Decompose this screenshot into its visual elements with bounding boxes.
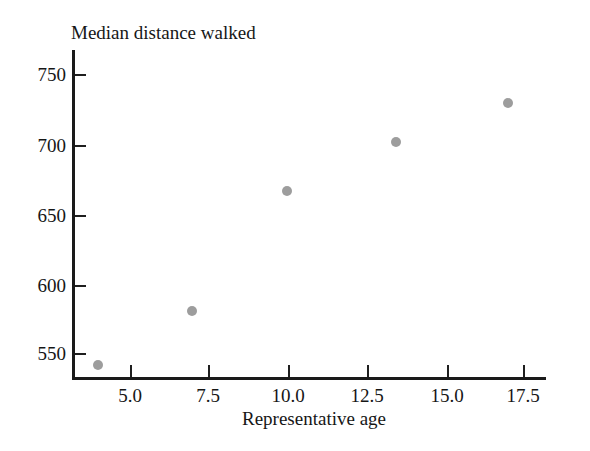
data-point bbox=[187, 306, 197, 316]
y-axis-tick bbox=[75, 145, 86, 147]
y-axis-tick-label: 550 bbox=[6, 344, 66, 363]
x-axis-tick bbox=[130, 365, 132, 377]
y-axis-title: Median distance walked bbox=[71, 22, 256, 44]
x-axis-tick-label: 12.5 bbox=[337, 386, 397, 405]
x-axis-tick-label: 15.0 bbox=[417, 386, 477, 405]
y-axis-tick-labels: 750700650600550 bbox=[0, 0, 66, 451]
x-axis-tick-label: 5.0 bbox=[100, 386, 160, 405]
x-axis-tick-label: 10.0 bbox=[258, 386, 318, 405]
data-point bbox=[503, 98, 513, 108]
x-axis-tick-label: 7.5 bbox=[178, 386, 238, 405]
x-axis-tick bbox=[288, 365, 290, 377]
data-point bbox=[391, 137, 401, 147]
y-axis-tick-label: 600 bbox=[6, 276, 66, 295]
y-axis-tick bbox=[75, 353, 86, 355]
data-point bbox=[93, 360, 103, 370]
y-axis-tick-label: 700 bbox=[6, 136, 66, 155]
y-axis-tick bbox=[75, 285, 86, 287]
y-axis-tick bbox=[75, 215, 86, 217]
x-axis-title: Representative age bbox=[0, 408, 590, 430]
y-axis-tick-label: 750 bbox=[6, 65, 66, 84]
x-axis-tick bbox=[447, 365, 449, 377]
data-points-layer bbox=[0, 0, 590, 451]
x-axis-tick bbox=[367, 365, 369, 377]
data-point bbox=[282, 186, 292, 196]
x-axis-tick-label: 17.5 bbox=[493, 386, 553, 405]
x-axis-tick bbox=[208, 365, 210, 377]
scatter-plot-figure: Median distance walked 750700650600550 5… bbox=[0, 0, 590, 451]
x-axis-tick bbox=[523, 365, 525, 377]
x-axis-line bbox=[72, 377, 546, 380]
y-axis-tick-label: 650 bbox=[6, 206, 66, 225]
y-axis-tick bbox=[75, 74, 86, 76]
